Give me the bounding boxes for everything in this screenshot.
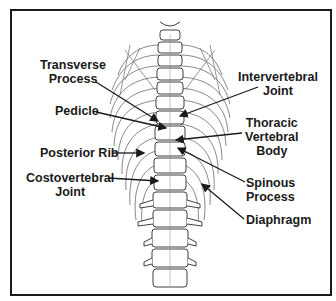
label-posterior-rib: Posterior Rib — [40, 146, 119, 160]
label-spinous-process: Spinous Process — [246, 176, 295, 204]
label-intervertebral-joint: Intervertebral Joint — [238, 70, 318, 98]
label-line: Process — [246, 190, 295, 204]
label-line: Intervertebral — [238, 70, 318, 84]
label-line: Thoracic — [245, 116, 299, 130]
label-line: Posterior Rib — [40, 146, 119, 160]
label-line: Vertebral — [245, 130, 299, 144]
label-line: Joint — [238, 84, 318, 98]
label-pedicle: Pedicle — [55, 104, 99, 118]
ribs-left — [110, 45, 160, 225]
label-transverse-process: Transverse Process — [40, 58, 106, 86]
label-line: Pedicle — [55, 104, 99, 118]
label-thoracic-vertebral-body: Thoracic Vertebral Body — [245, 116, 299, 158]
label-line: Process — [40, 72, 106, 86]
label-line: Joint — [26, 185, 114, 199]
label-line: Diaphragm — [246, 213, 311, 227]
arrow-diaphragm — [202, 184, 244, 219]
label-diaphragm: Diaphragm — [246, 213, 311, 227]
label-line: Body — [245, 144, 299, 158]
arrow-costovertebral-joint — [108, 178, 158, 181]
arrow-spinous-process — [178, 148, 245, 182]
label-costovertebral-joint: Costovertebral Joint — [26, 171, 114, 199]
label-line: Transverse — [40, 58, 106, 72]
label-line: Spinous — [246, 176, 295, 190]
label-line: Costovertebral — [26, 171, 114, 185]
